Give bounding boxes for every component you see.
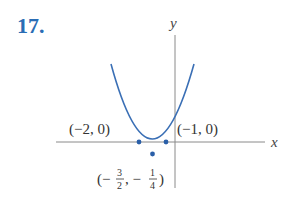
vertex-open: (− bbox=[97, 171, 110, 188]
point-root-left bbox=[137, 140, 142, 145]
label-point-left: (−2, 0) bbox=[69, 121, 110, 138]
vertex-close: ) bbox=[159, 171, 164, 188]
vertex-den1: 2 bbox=[117, 180, 122, 191]
vertex-num2: 1 bbox=[150, 167, 155, 178]
point-vertex bbox=[150, 152, 155, 157]
vertex-num1: 3 bbox=[117, 167, 122, 178]
graph: x y (−2, 0) (−1, 0) (− 3 2 , − 1 4 ) bbox=[0, 0, 297, 213]
label-vertex: (− 3 2 , − 1 4 ) bbox=[97, 167, 164, 191]
y-axis-label: y bbox=[168, 15, 177, 31]
x-axis-label: x bbox=[270, 134, 278, 150]
vertex-den2: 4 bbox=[150, 180, 155, 191]
vertex-sep: , − bbox=[125, 171, 141, 187]
point-root-right bbox=[164, 140, 169, 145]
label-point-right: (−1, 0) bbox=[177, 121, 218, 138]
